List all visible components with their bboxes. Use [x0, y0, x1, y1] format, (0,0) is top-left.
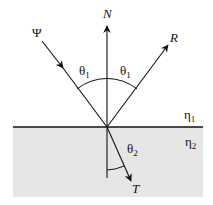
normal-label: N — [102, 6, 113, 21]
transmitted-label: T — [132, 181, 140, 196]
theta1-right-label: θ1 — [120, 63, 131, 80]
incident-ray-head — [42, 41, 63, 68]
incident-label: Ψ — [32, 25, 42, 40]
refraction-diagram: N Ψ R T θ1 θ1 θ2 η1 η2 — [0, 0, 213, 205]
eta1-label: η1 — [184, 107, 195, 124]
lower-medium-region — [13, 127, 203, 197]
reflected-label: R — [169, 30, 178, 45]
theta1-left-label: θ1 — [79, 63, 90, 80]
reflected-ray — [107, 45, 168, 127]
